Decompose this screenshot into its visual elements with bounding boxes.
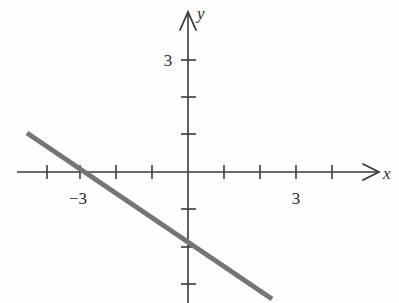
y-axis-label: y [197,5,205,22]
y-tick-label-3: 3 [160,52,176,69]
x-tick-label-3: 3 [288,190,304,207]
plotted-line [27,133,272,299]
coordinate-plane-svg [0,0,399,303]
x-axis-label: x [383,165,391,182]
x-tick-label-neg-3: −3 [64,190,92,207]
graph-figure: x y 3 −3 3 [0,0,399,303]
